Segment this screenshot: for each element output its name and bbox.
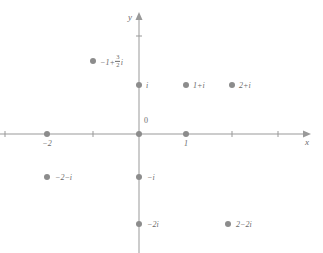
label-neg-i: −i [147, 174, 155, 182]
label-1-plus-i: 1+i [193, 82, 205, 90]
label-text-prefix: −1+ [100, 58, 115, 67]
label-neg2i: −2i [147, 221, 159, 229]
axes-group [0, 0, 323, 253]
point-1 [183, 131, 189, 137]
x-axis-label: x [305, 138, 309, 147]
label-neg2-minus-i: −2−i [55, 174, 72, 182]
point-2-plus-i [229, 82, 235, 88]
fraction-three-halves: 32 [115, 54, 120, 68]
point-neg2i [136, 221, 142, 227]
label-text-suffix: i [121, 58, 123, 67]
point-neg1-plus-three-halves-i [90, 58, 96, 64]
point-i [136, 82, 142, 88]
point-neg2 [44, 131, 50, 137]
complex-plane-figure: −1+32i i 1+i 2+i 0 −2 1 −2−i −i −2i 2−2i… [0, 0, 323, 253]
point-origin [136, 131, 142, 137]
label-1: 1 [184, 140, 188, 148]
y-axis-label: y [128, 13, 132, 22]
label-neg1-plus-three-halves-i: −1+32i [100, 54, 123, 68]
fraction-denominator: 2 [115, 61, 120, 69]
label-origin: 0 [144, 117, 148, 125]
point-1-plus-i [183, 82, 189, 88]
y-axis-arrow-icon [136, 12, 143, 20]
point-neg-i [136, 174, 142, 180]
label-2-plus-i: 2+i [239, 82, 251, 90]
fraction-numerator: 3 [115, 54, 120, 61]
point-neg2-minus-i [44, 174, 50, 180]
label-2-minus-2i: 2−2i [236, 221, 252, 229]
label-neg2: −2 [42, 140, 51, 148]
label-i: i [146, 82, 148, 90]
point-2-minus-2i [225, 221, 231, 227]
